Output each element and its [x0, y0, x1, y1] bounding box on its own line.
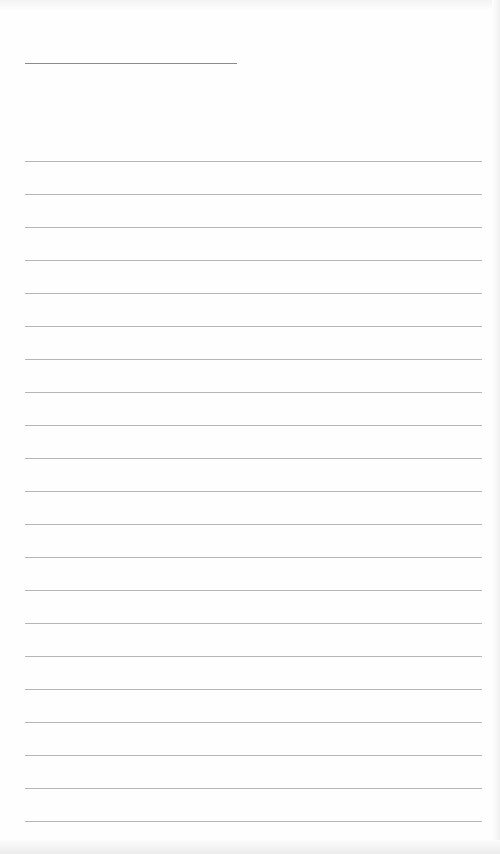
ruled-line	[25, 524, 482, 525]
ruled-line	[25, 227, 482, 228]
scan-edge-bottom	[0, 840, 500, 854]
ruled-line	[25, 392, 482, 393]
title-underline	[25, 63, 237, 64]
ruled-line	[25, 722, 482, 723]
ruled-line	[25, 755, 482, 756]
scan-edge-top	[0, 0, 500, 10]
ruled-line	[25, 458, 482, 459]
ruled-line	[25, 293, 482, 294]
ruled-line	[25, 326, 482, 327]
ruled-line	[25, 821, 482, 822]
ruled-line	[25, 194, 482, 195]
ruled-line	[25, 425, 482, 426]
ruled-line	[25, 260, 482, 261]
ruled-line	[25, 623, 482, 624]
ruled-line	[25, 656, 482, 657]
ruled-line	[25, 590, 482, 591]
ruled-line	[25, 557, 482, 558]
ruled-line	[25, 161, 482, 162]
ruled-line	[25, 491, 482, 492]
ruled-line	[25, 359, 482, 360]
title-field	[25, 44, 237, 62]
scan-edge-right	[492, 0, 500, 854]
ruled-line	[25, 689, 482, 690]
ruled-line	[25, 788, 482, 789]
lined-paper-page	[0, 0, 500, 854]
